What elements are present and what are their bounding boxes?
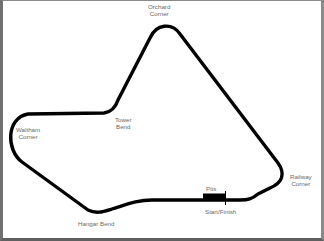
pit-lane <box>203 194 225 200</box>
tower-line1: Tower <box>115 116 132 123</box>
start-finish-line1: Start/Finish <box>205 208 236 215</box>
railway-line2: Corner <box>290 180 312 187</box>
hangar-line1: Hangar Bend <box>78 220 114 227</box>
orchard-line1: Orchard <box>148 3 170 10</box>
track-map-frame: Orchard Corner Tower Bend Waltham Corner… <box>0 0 324 241</box>
railway-line1: Railway <box>290 173 312 180</box>
waltham-line1: Waltham <box>16 126 40 133</box>
tower-line2: Bend <box>115 123 132 130</box>
circuit-track <box>0 0 324 241</box>
tower-bend-label: Tower Bend <box>115 116 132 130</box>
waltham-line2: Corner <box>16 133 40 140</box>
orchard-corner-label: Orchard Corner <box>148 3 170 17</box>
track-path <box>11 26 283 212</box>
railway-corner-label: Railway Corner <box>290 173 312 187</box>
orchard-line2: Corner <box>148 10 170 17</box>
hangar-bend-label: Hangar Bend <box>78 220 114 227</box>
waltham-corner-label: Waltham Corner <box>16 126 40 140</box>
pits-line1: Pits <box>206 185 216 192</box>
start-finish-label: Start/Finish <box>205 208 236 215</box>
pits-label: Pits <box>206 185 216 192</box>
